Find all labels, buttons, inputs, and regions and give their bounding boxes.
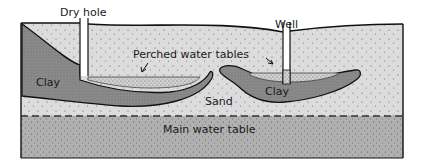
dry-hole-label: Dry hole — [60, 7, 107, 18]
well-shaft — [283, 22, 290, 84]
main-water-table-label: Main water table — [163, 124, 255, 135]
cross-section-svg — [0, 0, 423, 166]
groundwater-diagram: Dry hole Well Perched water tables Clay … — [0, 0, 423, 166]
clay-label-right: Clay — [265, 86, 289, 97]
sand-label: Sand — [205, 96, 233, 107]
perched-water-tables-label: Perched water tables — [133, 49, 249, 60]
well-label: Well — [275, 19, 298, 30]
dry-hole-shaft — [80, 18, 88, 76]
clay-label-left: Clay — [36, 77, 60, 88]
